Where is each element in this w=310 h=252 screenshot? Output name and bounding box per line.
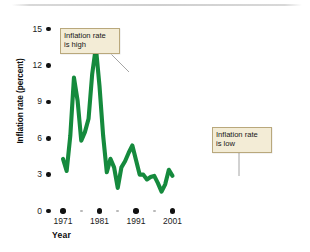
inflation-rate-line [63, 47, 173, 191]
inflation-rate-line-chart: 03691215 1971198119912001 Inflation rate… [0, 0, 310, 252]
chart-plot-area [0, 0, 310, 252]
y-tick-dot-9 [46, 100, 51, 105]
y-tick-label-3: 3 [26, 169, 42, 179]
x-tick-dot-1971 [60, 208, 65, 213]
x-tick-dot-1981 [97, 208, 102, 213]
y-tick-label-0: 0 [26, 206, 42, 216]
x-tick-label-1991: 1991 [119, 216, 153, 226]
x-tick-label-1971: 1971 [46, 216, 80, 226]
y-tick-dot-15 [46, 27, 51, 32]
y-axis-title: Inflation rate (percent) [15, 36, 25, 166]
x-tick-label-2001: 2001 [156, 216, 190, 226]
y-tick-label-12: 12 [26, 60, 42, 70]
x-tick-label-1981: 1981 [83, 216, 117, 226]
x-tick-dot-1991 [133, 208, 138, 213]
callout-inflation-low: Inflation rate is low [212, 127, 272, 153]
y-tick-label-6: 6 [26, 133, 42, 143]
x-axis-title: Year [52, 230, 71, 240]
y-tick-dot-0 [46, 209, 51, 214]
x-tick-dot-minor-1976 [80, 210, 83, 213]
y-tick-label-9: 9 [26, 96, 42, 106]
y-tick-dot-3 [46, 172, 51, 177]
y-tick-dot-12 [46, 63, 51, 68]
x-tick-dot-2001 [170, 208, 175, 213]
callout-inflation-high: Inflation rate is high [60, 28, 120, 54]
callout-high-leader-line [112, 55, 130, 73]
y-tick-label-15: 15 [26, 24, 42, 34]
y-tick-dot-6 [46, 136, 51, 141]
x-tick-dot-minor-1996 [153, 210, 156, 213]
